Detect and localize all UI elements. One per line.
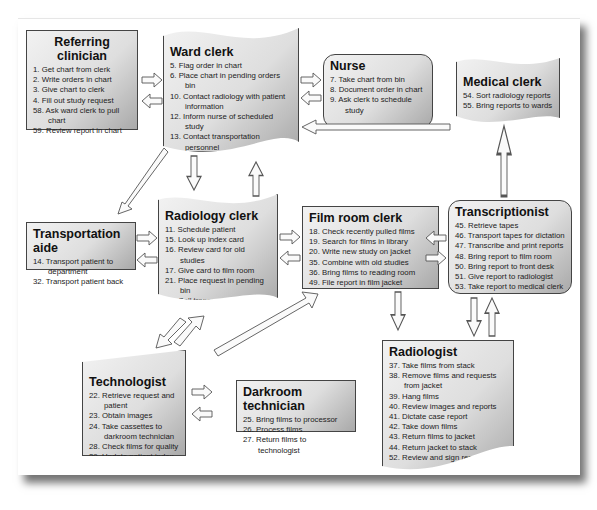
node-item: 30. Return study card to clerk: [89, 473, 179, 493]
node-item: 50. Bring report to front desk: [455, 262, 565, 272]
node-item: 26. Process films: [243, 425, 349, 435]
node-transcriptionist: Transcriptionist 45. Retrieve tapes 46. …: [448, 200, 572, 294]
node-item: 17. Give card to film room: [165, 266, 271, 276]
node-title: Transcriptionist: [455, 205, 565, 219]
node-item: 53. Take report to medical clerk: [455, 282, 565, 292]
node-technologist: Technologist 22. Retrieve request and pa…: [82, 350, 186, 456]
node-item: 47. Transcribe and print reports: [455, 241, 565, 251]
node-item: 6. Place chart in pending orders bin: [170, 71, 292, 91]
node-title: Transportation aide: [33, 227, 129, 255]
node-title: Nurse: [330, 59, 426, 73]
node-item: 58. Ask ward clerk to pull chart: [33, 106, 131, 126]
node-item: 11. Schedule patient: [165, 225, 271, 235]
node-item: 15. Look up index card: [165, 235, 271, 245]
node-medical-clerk: Medical clerk 54. Sort radiology reports…: [456, 56, 560, 124]
node-item: 39. Hang films: [389, 392, 507, 402]
node-item: 25. Bring films to processor: [243, 415, 349, 425]
node-item: 41. Dictate case report: [389, 412, 507, 422]
node-item: 19. Search for films in library: [309, 237, 432, 247]
node-item: 36. Bring films to reading room: [309, 268, 432, 278]
node-item: 8. Document order in chart: [330, 85, 426, 95]
node-item: 43. Return films to jacket: [389, 432, 507, 442]
node-title: Darkroom technician: [243, 385, 349, 413]
node-item: 48. Bring report to film room: [455, 252, 565, 262]
node-item: 23. Obtain images: [89, 411, 179, 421]
node-darkroom-technician: Darkroom technician 25. Bring films to p…: [236, 380, 356, 432]
node-radiology-clerk: Radiology clerk 11. Schedule patient 15.…: [158, 194, 278, 304]
node-item: 40. Review images and reports: [389, 402, 507, 412]
node-item: 51. Give report to radiologist: [455, 272, 565, 282]
node-item: 24. Take cassettes to darkroom technicia…: [89, 422, 179, 442]
node-item: 45. Retrieve tapes: [455, 221, 565, 231]
node-title: Radiology clerk: [165, 209, 271, 223]
node-title: Technologist: [89, 375, 179, 389]
node-item: 55. Bring reports to wards: [463, 101, 553, 111]
node-item: 3. Give chart to clerk: [33, 85, 131, 95]
node-transportation-aide: Transportation aide 14. Transport patien…: [26, 222, 136, 270]
node-item: 22. Retrieve request and patient: [89, 391, 179, 411]
node-item: 46. Transport tapes for dictation: [455, 231, 565, 241]
node-item: 14. Transport patient to department: [33, 257, 129, 277]
node-title: Medical clerk: [463, 75, 553, 89]
node-item: 4. Fill out study request: [33, 96, 131, 106]
node-item: 59. Review report in chart: [33, 126, 131, 136]
node-item: 5. Flag order in chart: [170, 61, 292, 71]
node-item: 27. Return films to technologist: [243, 435, 349, 455]
node-item: 7. Take chart from bin: [330, 75, 426, 85]
node-item: 2. Write orders in chart: [33, 75, 131, 85]
node-item: 34. Bring films to film room: [89, 493, 179, 510]
node-item: 49. File report in film jacket: [309, 278, 432, 288]
node-nurse: Nurse 7. Take chart from bin 8. Document…: [323, 54, 433, 128]
node-item: 28. Check films for quality: [89, 442, 179, 452]
node-film-room-clerk: Film room clerk 18. Check recently pulle…: [302, 206, 439, 289]
node-item: 1. Get chart from clerk: [33, 65, 131, 75]
node-title: Film room clerk: [309, 211, 432, 225]
node-item: 21. Place request in pending bin: [165, 276, 271, 296]
node-item: 12. Inform nurse of scheduled study: [170, 112, 292, 132]
node-item: 9. Ask clerk to schedule study: [330, 95, 426, 115]
node-item: 20. Write new study on jacket: [309, 247, 432, 257]
node-title: Radiologist: [389, 345, 507, 359]
node-item: 54. Sort radiology reports: [463, 91, 553, 101]
node-item: 38. Remove films and requests from jacke…: [389, 371, 507, 391]
node-title: Ward clerk: [170, 45, 292, 59]
node-item: 10. Contact radiology with patient infor…: [170, 92, 292, 112]
node-item: 16. Review card for old studies: [165, 245, 271, 265]
node-title: Referring clinician: [33, 35, 131, 63]
node-item: 42. Take down films: [389, 422, 507, 432]
node-referring-clinician: Referring clinician 1. Get chart from cl…: [26, 30, 138, 130]
node-ward-clerk: Ward clerk 5. Flag order in chart 6. Pla…: [163, 26, 299, 152]
node-item: 37. Take films from stack: [389, 361, 507, 371]
node-item: 18. Check recently pulled films: [309, 227, 432, 237]
node-item: 32. Transport patient back: [33, 277, 129, 287]
node-item: 35. Combine with old studies: [309, 258, 432, 268]
